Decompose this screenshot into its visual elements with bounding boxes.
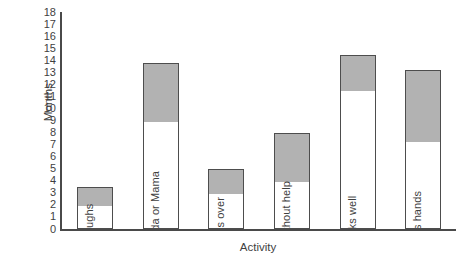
bar-upper-segment (209, 170, 243, 194)
bar-upper-segment (341, 56, 375, 91)
y-axis-tick-label: 15 (36, 43, 56, 54)
bar-upper-segment (406, 71, 440, 142)
y-axis-tick-label: 6 (36, 151, 56, 162)
bar: Says Dada or Mama (143, 63, 179, 229)
plot-area: LaughsSays Dada or MamaRolls overSits wi… (62, 12, 456, 229)
y-axis-tick-label: 9 (36, 115, 56, 126)
bar: Claps hands (405, 70, 441, 229)
y-axis-tick-labels: 0123456789101112131415161718 (36, 0, 56, 261)
bar-chart: Months 0123456789101112131415161718 Laug… (0, 0, 467, 261)
y-axis-tick-label: 1 (36, 211, 56, 222)
bar: Rolls over (208, 169, 244, 229)
y-axis-tick-label: 8 (36, 127, 56, 138)
x-axis-title: Activity (60, 241, 456, 253)
y-axis-tick-label: 10 (36, 103, 56, 114)
y-axis-tick-label: 14 (36, 55, 56, 66)
bar-category-label: Says Dada or Mama (150, 171, 161, 229)
y-axis-tick-label: 13 (36, 67, 56, 78)
y-axis-tick-label: 3 (36, 187, 56, 198)
y-axis-tick-label: 17 (36, 19, 56, 30)
bar-category-label: Rolls over (215, 197, 226, 229)
y-axis-tick-label: 12 (36, 79, 56, 90)
bar: Sits without help (274, 133, 310, 229)
y-axis-tick-label: 16 (36, 31, 56, 42)
bar-category-label: Claps hands (412, 191, 423, 229)
bar-category-label: Sits without help (281, 181, 292, 229)
bar: Laughs (77, 187, 113, 229)
y-axis-tick-label: 7 (36, 139, 56, 150)
y-axis-tick-label: 0 (36, 224, 56, 235)
x-axis-line (60, 229, 456, 231)
y-axis-tick-label: 5 (36, 163, 56, 174)
bar-upper-segment (144, 64, 178, 122)
y-axis-tick-label: 11 (36, 91, 56, 102)
bar-upper-segment (275, 134, 309, 182)
y-axis-tick-label: 18 (36, 7, 56, 18)
y-axis-tick-label: 4 (36, 175, 56, 186)
bar: Walks well (340, 55, 376, 229)
bar-category-label: Laughs (84, 204, 95, 229)
y-axis-tick-label: 2 (36, 199, 56, 210)
bar-category-label: Walks well (347, 196, 358, 229)
